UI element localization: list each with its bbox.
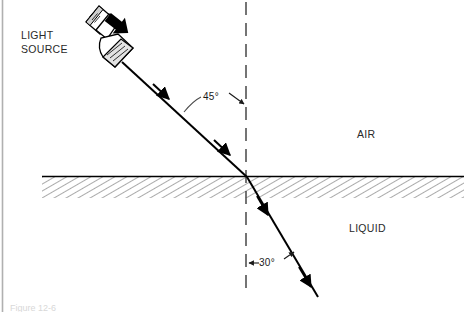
incident-angle-leader-left bbox=[184, 97, 201, 112]
incident-angle-leader-right bbox=[229, 93, 244, 104]
refracted-angle-label: 30° bbox=[259, 256, 275, 269]
light-source-label-line1: LIGHT bbox=[21, 29, 53, 41]
figure-caption: Figure 12-6 bbox=[10, 303, 56, 312]
flashlight-icon bbox=[86, 6, 134, 67]
incident-ray bbox=[122, 62, 247, 177]
light-source-label: LIGHTSOURCE bbox=[21, 28, 68, 56]
liquid-label: LIQUID bbox=[349, 222, 386, 235]
figure-canvas: LIGHTSOURCE AIR LIQUID 45° 30° Figure 12… bbox=[0, 0, 473, 312]
air-label: AIR bbox=[357, 128, 375, 141]
incident-angle-label: 45° bbox=[203, 90, 219, 103]
refracted-ray-arrow-2 bbox=[299, 267, 311, 287]
refraction-diagram bbox=[0, 0, 473, 312]
light-source-label-line2: SOURCE bbox=[21, 43, 68, 55]
refracted-ray-arrow-1 bbox=[257, 196, 268, 215]
